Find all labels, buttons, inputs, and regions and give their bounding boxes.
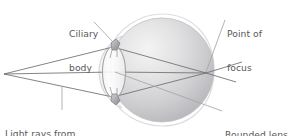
label-ciliary-body-line2: body [69, 62, 98, 73]
crystalline-lens-group [103, 46, 126, 98]
label-light-rays-line1: Light rays from [5, 128, 76, 136]
label-point-of-focus-line1: Point of [227, 28, 262, 39]
label-rounded-lens-line1: Rounded lens [225, 129, 290, 136]
label-rounded-lens-bends-the-light: Rounded lens bends the light [225, 106, 290, 136]
label-point-of-focus-line2: focus [227, 62, 262, 73]
label-point-of-focus: Point of focus [227, 5, 262, 96]
label-light-rays-from-near-object: Light rays from near object [5, 105, 76, 136]
label-ciliary-body: Ciliary body [69, 5, 98, 96]
label-ciliary-body-line1: Ciliary [69, 28, 98, 39]
eye-accommodation-diagram: Ciliary body Point of focus Light rays f… [0, 0, 290, 136]
crystalline-lens [103, 46, 126, 98]
